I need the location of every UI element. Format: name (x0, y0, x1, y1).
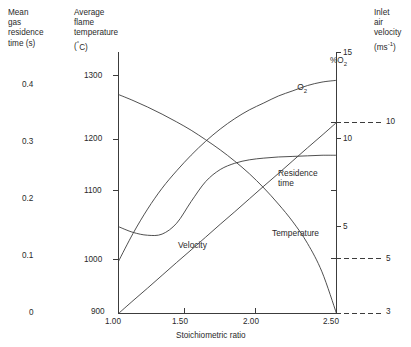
curve-residence-time (119, 155, 337, 235)
plot-svg (0, 0, 411, 347)
figure-container: Mean gas residence time (s) 0.4 0.3 0.2 … (0, 0, 411, 347)
curve-o2 (119, 80, 337, 261)
curve-velocity (119, 123, 337, 314)
